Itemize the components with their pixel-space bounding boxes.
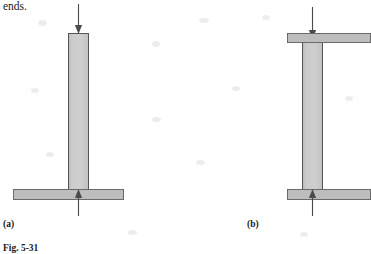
scan-speckle [196,160,205,165]
scan-speckle [300,232,308,237]
scan-speckle [152,41,160,47]
scan-speckle [128,230,137,235]
scan-speckle [38,20,47,26]
figure-a-base-reaction-arrow [72,188,85,218]
figure-b-column [302,38,323,191]
figure-a-top-load-arrow [72,2,85,36]
figure-a-base-plate [13,189,124,200]
body-text-ends: ends. [3,0,27,12]
figure-b-top-plate [287,33,371,43]
scan-speckle [262,15,270,20]
figure-b-bottom-plate [287,189,371,200]
figure-caption: Fig. 5-31 [3,243,38,254]
figure-b-label: (b) [247,219,259,229]
figure-a-label: (a) [3,219,14,229]
scan-speckle [199,18,209,23]
scan-speckle [232,86,240,91]
scan-speckle [31,88,39,93]
scan-speckle [152,117,161,122]
figure-a-column [68,33,89,191]
scan-speckle [345,96,353,101]
figure-b-bottom-reaction-arrow [306,188,319,218]
scan-speckle [46,152,54,157]
